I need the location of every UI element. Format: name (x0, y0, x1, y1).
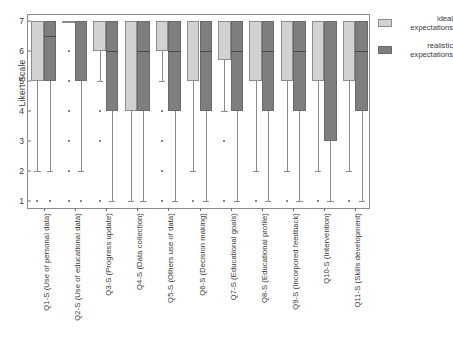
box-ideal (218, 21, 230, 60)
box-realistic (355, 21, 367, 111)
box-realistic (106, 21, 118, 111)
median-line (168, 51, 180, 52)
whisker-lower (112, 111, 113, 201)
outlier-point (68, 110, 70, 112)
outlier-point (36, 200, 38, 202)
x-tick-mark (44, 208, 45, 211)
y-tick-label: 2 (19, 166, 24, 176)
median-line (262, 51, 274, 52)
outlier-point (99, 200, 101, 202)
whisker-cap-lower (221, 111, 227, 112)
box-realistic (293, 21, 305, 111)
legend-label-line2: expectations (396, 50, 453, 59)
outlier-point (223, 200, 225, 202)
x-tick-mark (137, 208, 138, 211)
legend: idealexpectationsrealisticexpectations (378, 14, 453, 68)
box-ideal (312, 21, 324, 81)
whisker-lower (299, 111, 300, 201)
box-realistic (44, 21, 56, 81)
x-tick-mark (106, 208, 107, 211)
y-tick-label: 1 (19, 196, 24, 206)
box-realistic (262, 21, 274, 111)
median-line (44, 36, 56, 37)
whisker-lower (206, 111, 207, 201)
outlier-point (68, 170, 70, 172)
whisker-cap-lower (296, 201, 302, 202)
x-tick-mark (324, 208, 325, 211)
outlier-point (68, 140, 70, 142)
y-tick-label: 6 (19, 46, 24, 56)
whisker-cap-lower (128, 201, 134, 202)
outlier-point (348, 200, 350, 202)
median-line (137, 51, 149, 52)
whisker-cap-lower (171, 201, 177, 202)
box-ideal (343, 21, 355, 81)
y-tick-label: 7 (19, 16, 24, 26)
outlier-point (317, 200, 319, 202)
box-realistic (231, 21, 243, 111)
median-line (231, 51, 243, 52)
legend-swatch-icon (378, 19, 392, 27)
y-tick-label: 3 (19, 136, 24, 146)
legend-label-line1: realistic (396, 41, 453, 50)
whisker-cap-lower (109, 201, 115, 202)
legend-item: realisticexpectations (378, 41, 453, 59)
legend-item: idealexpectations (378, 14, 453, 32)
whisker-lower (318, 81, 319, 171)
outlier-point (161, 110, 163, 112)
whisker-lower (175, 111, 176, 201)
outlier-point (80, 200, 82, 202)
outlier-point (255, 200, 257, 202)
whisker-lower (193, 81, 194, 171)
x-tick-label: Q8-S (Educational profile) (259, 213, 268, 303)
x-tick-mark (168, 208, 169, 211)
outlier-point (99, 140, 101, 142)
y-tick-label: 5 (19, 76, 24, 86)
plot-area: 1234567 (27, 14, 370, 209)
whisker-lower (349, 81, 350, 171)
box-realistic (168, 21, 180, 111)
whisker-cap-lower (140, 201, 146, 202)
y-tick-label: 4 (19, 106, 24, 116)
outlier-point (49, 200, 51, 202)
y-tick-mark (28, 201, 31, 202)
x-tick-label: Q9-S (Incorpored feedback) (291, 213, 300, 310)
outlier-point (161, 200, 163, 202)
legend-label-line2: expectations (396, 23, 453, 32)
box-realistic (75, 21, 87, 81)
outlier-point (286, 200, 288, 202)
box-ideal (281, 21, 293, 81)
outlier-point (68, 50, 70, 52)
x-tick-mark (262, 208, 263, 211)
x-tick-label: Q6-S (Decision making) (197, 213, 206, 296)
whisker-cap-lower (159, 81, 165, 82)
whisker-lower (268, 111, 269, 201)
box-realistic (324, 21, 336, 141)
x-tick-mark (355, 208, 356, 211)
box-ideal (249, 21, 261, 81)
x-tick-label: Q10-S (Intervention) (322, 213, 331, 284)
median-line (200, 51, 212, 52)
box-ideal (125, 21, 137, 111)
outlier-point (161, 140, 163, 142)
whisker-cap-lower (359, 201, 365, 202)
whisker-lower (330, 141, 331, 201)
box-realistic (200, 21, 212, 111)
whisker-lower (287, 81, 288, 171)
x-tick-label: Q7-S (Educational goals) (228, 213, 237, 300)
whisker-lower (162, 51, 163, 81)
whisker-lower (256, 81, 257, 171)
whisker-cap-lower (284, 171, 290, 172)
outlier-point (223, 140, 225, 142)
box-ideal (31, 21, 43, 81)
x-tick-mark (75, 208, 76, 211)
legend-swatch-icon (378, 46, 392, 54)
x-tick-label: Q3-S (Progress update) (103, 213, 112, 296)
whisker-cap-lower (190, 171, 196, 172)
median-line (106, 51, 118, 52)
x-tick-label: Q2-S (Use of educational data) (72, 213, 81, 321)
y-tick-mark (28, 141, 31, 142)
whisker-lower (224, 60, 225, 111)
median-line (293, 51, 305, 52)
box-ideal (187, 21, 199, 81)
